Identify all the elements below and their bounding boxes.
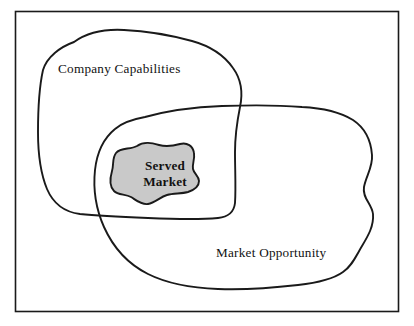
outer-frame (16, 12, 399, 312)
label-market-opportunity: Market Opportunity (216, 245, 327, 260)
venn-diagram: Company Capabilities Market Opportunity … (0, 0, 414, 326)
label-served-market-line1: Served (145, 158, 185, 173)
diagram-canvas: Company Capabilities Market Opportunity … (0, 0, 414, 326)
label-company-capabilities: Company Capabilities (58, 61, 181, 76)
label-served-market-line2: Market (143, 174, 187, 189)
